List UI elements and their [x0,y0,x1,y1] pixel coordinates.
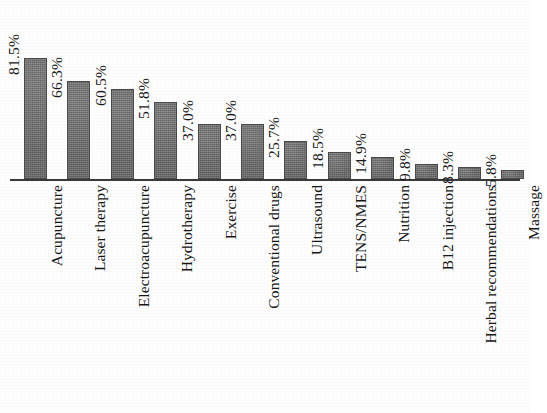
bar-value-label-text: 5.8% [480,154,501,187]
bar-value-label-text: 37.0% [177,100,198,141]
bar-value-label-text: 81.5% [3,34,24,75]
category-label-text: Laser therapy [89,185,110,271]
bar [415,164,438,179]
category-label-text: Nutrition [393,185,414,243]
bar [458,167,481,179]
category-label-text: Exercise [220,185,241,239]
bar [328,152,351,179]
bar-value-label-text: 37.0% [220,100,241,141]
category-label-text: Conventional drugs [263,185,284,309]
bar [241,124,264,179]
bar [24,58,47,179]
bar [371,157,394,179]
category-label-text: TENS/NMES [350,185,371,272]
category-label-text: Acupuncture [46,185,67,266]
bar-value-label-text: 66.3% [46,56,67,97]
bar [154,102,177,179]
category-label-text: Herbal recommendations [480,185,501,343]
category-label-text: B12 injection [437,185,458,270]
bar-value-label-text: 8.3% [437,151,458,184]
bar-value-label-text: 9.8% [394,148,415,181]
bar-value-label-text: 18.5% [307,127,328,168]
bar-value-label-text: 25.7% [263,117,284,158]
bar [198,124,221,179]
bar [284,141,307,179]
bar-value-label-text: 14.9% [350,133,371,174]
category-label-text: Hydrotherapy [176,185,197,272]
bar [67,81,90,179]
category-label-text: Massage [523,185,544,240]
bar [111,89,134,179]
bar-value-label-text: 51.8% [133,78,154,119]
category-label-text: Electroacupuncture [133,185,154,307]
bar-value-label-text: 60.5% [90,65,111,106]
category-label-text: Ultrasound [306,185,327,255]
bar [501,170,524,179]
